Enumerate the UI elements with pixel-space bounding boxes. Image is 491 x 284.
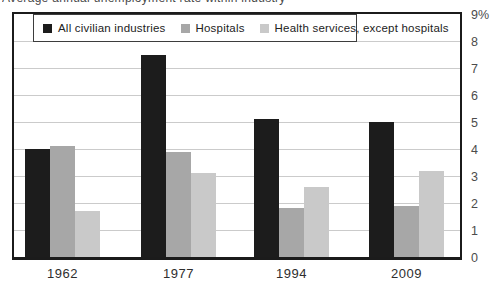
bar-health-services-except-hospitals-2009	[419, 171, 444, 257]
y-axis-tick-label: 6	[471, 89, 491, 103]
bar-health-services-except-hospitals-1994	[304, 187, 329, 257]
chart-title: Average annual unemployment rate within …	[2, 0, 482, 6]
gridline	[14, 68, 460, 69]
y-axis-tick-label: 1	[471, 224, 491, 238]
y-axis-tick-label: 4	[471, 143, 491, 157]
bar-hospitals-2009	[394, 206, 419, 257]
legend-item-all-civilian-industries: All civilian industries	[43, 22, 166, 34]
bar-all-civilian-industries-1977	[141, 55, 166, 258]
legend-label: All civilian industries	[58, 22, 166, 34]
legend-item-health-services-except-hospitals: Health services, except hospitals	[260, 22, 449, 34]
legend: All civilian industries Hospitals Health…	[33, 14, 357, 42]
legend-label: Hospitals	[196, 22, 245, 34]
y-axis-tick-label: 5	[471, 116, 491, 130]
plot-area	[12, 12, 462, 260]
legend-swatch	[43, 24, 52, 33]
legend-swatch	[260, 24, 269, 33]
legend-label: Health services, except hospitals	[275, 22, 449, 34]
chart-title-text: Average annual unemployment rate within …	[2, 0, 482, 5]
y-axis-tick-label: 3	[471, 170, 491, 184]
y-axis-tick-label: 9%	[471, 8, 491, 22]
gridline	[14, 95, 460, 96]
legend-swatch	[181, 24, 190, 33]
y-axis-tick-label: 7	[471, 62, 491, 76]
x-axis-label: 1994	[262, 266, 322, 281]
bar-all-civilian-industries-2009	[369, 122, 394, 257]
chart-figure: Average annual unemployment rate within …	[0, 0, 491, 284]
bar-all-civilian-industries-1962	[25, 149, 50, 257]
bar-hospitals-1962	[50, 146, 75, 257]
legend-item-hospitals: Hospitals	[181, 22, 245, 34]
bar-health-services-except-hospitals-1962	[75, 211, 100, 257]
y-axis-tick-label: 8	[471, 35, 491, 49]
x-axis-label: 1977	[149, 266, 209, 281]
y-axis-tick-label: 2	[471, 197, 491, 211]
bar-all-civilian-industries-1994	[254, 119, 279, 257]
y-axis-tick-label: 0	[471, 251, 491, 265]
x-axis-label: 1962	[33, 266, 93, 281]
bar-hospitals-1977	[166, 152, 191, 257]
x-axis-label: 2009	[377, 266, 437, 281]
bar-health-services-except-hospitals-1977	[191, 173, 216, 257]
bar-hospitals-1994	[279, 208, 304, 257]
